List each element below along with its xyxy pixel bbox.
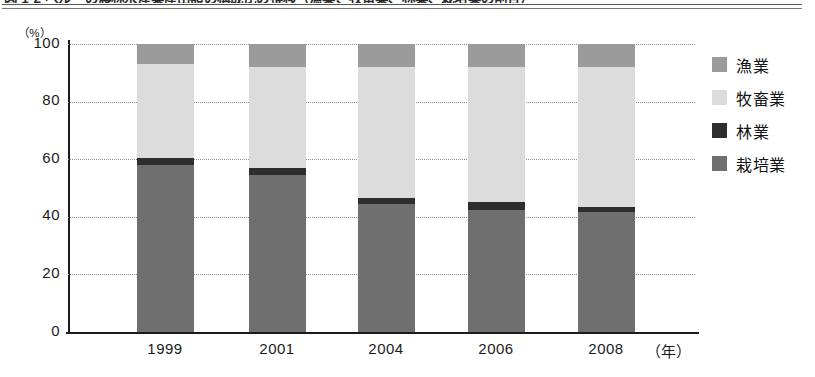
legend-item-forestry: 林業 [712, 114, 812, 147]
bar-segment-fishery-1999 [137, 44, 194, 64]
bar-segment-fishery-2001 [249, 44, 306, 67]
bar-2006 [468, 44, 525, 332]
x-tick-1999: 1999 [120, 340, 210, 357]
bar-segment-forestry-2006 [468, 202, 525, 209]
y-tick-20: 20 [14, 264, 60, 281]
bar-segment-forestry-1999 [137, 158, 194, 165]
x-tick-2008: 2008 [561, 340, 651, 357]
figure-title-strip: 図 1-2 ペルーの農林水産業産出額の構成比の推移（漁業、牧畜業、林業、栽培業の… [0, 0, 815, 3]
bar-segment-cultivation-2004 [358, 204, 415, 332]
legend-label-forestry: 林業 [736, 119, 769, 143]
bar-segment-livestock-2006 [468, 67, 525, 202]
legend: 漁業 牧畜業 林業 栽培業 [712, 48, 812, 180]
legend-swatch-cultivation [712, 156, 727, 171]
bar-segment-cultivation-2006 [468, 210, 525, 332]
bar-segment-fishery-2006 [468, 44, 525, 67]
x-tick-2006: 2006 [451, 340, 541, 357]
legend-label-cultivation: 栽培業 [736, 152, 786, 176]
legend-swatch-fishery [712, 57, 727, 72]
bar-segment-livestock-2004 [358, 67, 415, 198]
bar-segment-cultivation-1999 [137, 165, 194, 332]
bar-segment-fishery-2004 [358, 44, 415, 67]
x-axis-line [66, 332, 699, 334]
plot-area [68, 44, 695, 332]
bar-segment-forestry-2001 [249, 168, 306, 175]
legend-swatch-forestry [712, 123, 727, 138]
y-axis-line [68, 40, 70, 334]
chart-figure: 図 1-2 ペルーの農林水産業産出額の構成比の推移（漁業、牧畜業、林業、栽培業の… [0, 0, 815, 377]
y-tick-100: 100 [14, 34, 60, 51]
y-tick-0: 0 [14, 322, 60, 339]
figure-title: 図 1-2 ペルーの農林水産業産出額の構成比の推移（漁業、牧畜業、林業、栽培業の… [4, 0, 534, 3]
legend-item-livestock: 牧畜業 [712, 81, 812, 114]
x-axis-unit: （年） [646, 340, 691, 361]
bar-2008 [578, 44, 635, 332]
legend-label-livestock: 牧畜業 [736, 86, 786, 110]
y-tick-80: 80 [14, 91, 60, 108]
title-rule-top [2, 4, 802, 5]
y-tick-60: 60 [14, 149, 60, 166]
title-rule-bottom [2, 8, 802, 9]
x-tick-2004: 2004 [341, 340, 431, 357]
y-axis-tick-labels: 100 80 60 40 20 0 [8, 44, 60, 332]
bar-1999 [137, 44, 194, 332]
bar-segment-fishery-2008 [578, 44, 635, 67]
bar-segment-cultivation-2008 [578, 212, 635, 332]
y-tick-40: 40 [14, 206, 60, 223]
bar-segment-livestock-2001 [249, 67, 306, 168]
bar-segment-livestock-1999 [137, 64, 194, 158]
x-tick-2001: 2001 [232, 340, 322, 357]
legend-swatch-livestock [712, 90, 727, 105]
bar-segment-livestock-2008 [578, 67, 635, 207]
bar-2004 [358, 44, 415, 332]
legend-item-cultivation: 栽培業 [712, 147, 812, 180]
bar-segment-cultivation-2001 [249, 175, 306, 332]
legend-item-fishery: 漁業 [712, 48, 812, 81]
legend-label-fishery: 漁業 [736, 53, 769, 77]
bar-2001 [249, 44, 306, 332]
